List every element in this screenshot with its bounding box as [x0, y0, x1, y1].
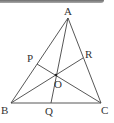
label-o: O [54, 78, 62, 90]
label-c: C [101, 104, 108, 116]
triangle-diagram: A B C P Q R O [0, 0, 114, 123]
label-p: P [27, 52, 33, 64]
label-r: R [85, 48, 93, 60]
point-o-dot [55, 74, 58, 77]
label-b: B [1, 104, 8, 116]
side-ca [68, 18, 101, 103]
label-a: A [64, 5, 72, 17]
label-q: Q [45, 105, 53, 117]
cevian-br [11, 58, 83, 103]
cevian-cp [37, 64, 101, 103]
